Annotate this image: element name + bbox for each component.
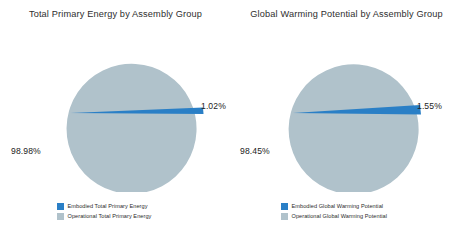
legend-swatch-embodied-icon [281,203,288,210]
legend-label-embodied: Embodied Global Warming Potential [292,202,384,210]
legend-item-operational[interactable]: Operational Total Primary Energy [57,212,175,220]
legend-global-warming-potential: Embodied Global Warming Potential Operat… [231,202,462,220]
pie-svg-total-primary-energy [0,37,231,192]
charts-board: Total Primary Energy by Assembly Group 9… [0,0,462,241]
data-label-minor-percent: 1.55% [417,101,442,111]
legend-item-embodied[interactable]: Embodied Total Primary Energy [57,202,175,210]
legend-swatch-operational-icon [57,213,64,220]
legend-label-embodied: Embodied Total Primary Energy [68,202,148,210]
legend-swatch-operational-icon [281,213,288,220]
page-title-global-warming-potential: Global Warming Potential by Assembly Gro… [231,9,462,19]
pie-svg-global-warming-potential [231,37,462,192]
data-label-major-percent: 98.98% [11,146,41,156]
legend-label-operational: Operational Total Primary Energy [68,212,152,220]
legend-item-embodied[interactable]: Embodied Global Warming Potential [281,202,413,210]
legend-total-primary-energy: Embodied Total Primary Energy Operationa… [0,202,231,220]
data-label-minor-percent: 1.02% [201,101,226,111]
pie-slice-operational[interactable] [289,64,419,192]
chart-panel-global-warming-potential: Global Warming Potential by Assembly Gro… [231,0,462,241]
legend-item-operational[interactable]: Operational Global Warming Potential [281,212,413,220]
legend-swatch-embodied-icon [57,203,64,210]
pie-chart-total-primary-energy [0,37,231,192]
page-title-total-primary-energy: Total Primary Energy by Assembly Group [0,9,231,19]
chart-panel-total-primary-energy: Total Primary Energy by Assembly Group 9… [0,0,231,241]
pie-slice-operational[interactable] [67,64,197,192]
legend-label-operational: Operational Global Warming Potential [292,212,388,220]
pie-chart-global-warming-potential [231,37,462,192]
data-label-major-percent: 98.45% [240,146,270,156]
